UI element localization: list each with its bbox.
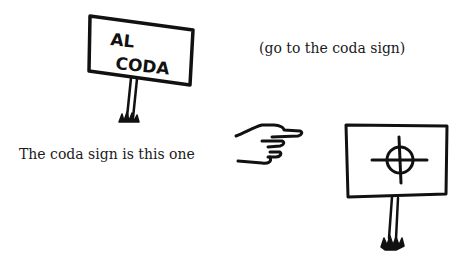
coda-sign [346, 125, 447, 250]
pointing-hand-icon [236, 125, 302, 163]
coda-explanation: (go to the coda sign) [259, 40, 405, 56]
al-coda-sign: AL CODA [89, 16, 193, 122]
coda-pointer-caption: The coda sign is this one [19, 146, 195, 162]
al-coda-line1: AL [110, 29, 136, 51]
